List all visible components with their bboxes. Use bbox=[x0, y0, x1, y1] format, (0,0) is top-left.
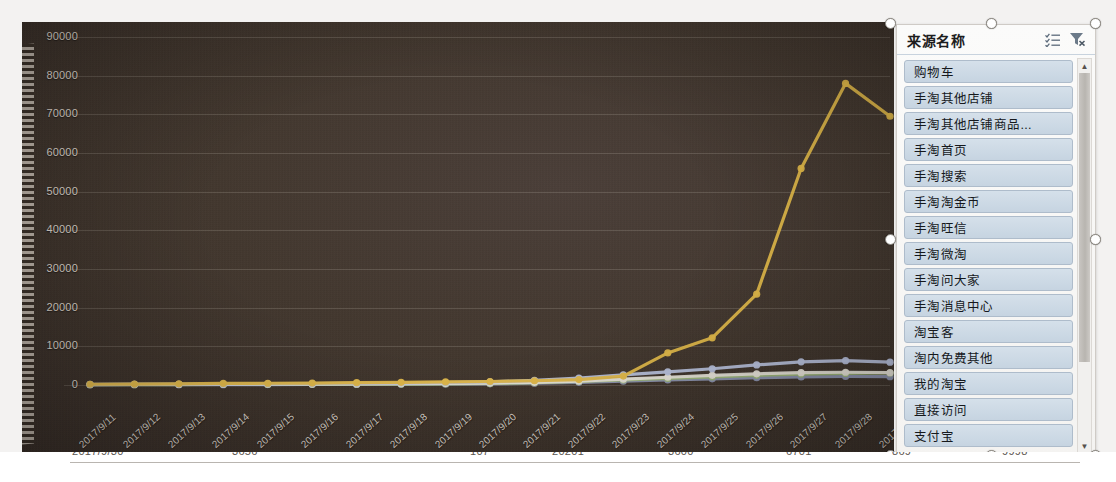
table-cell: 107 bbox=[470, 452, 540, 460]
cropped-table-row: 2017/9/30365610720201360067018699998 bbox=[0, 452, 1116, 482]
scrollbar-thumb[interactable] bbox=[1079, 73, 1090, 362]
series-marker[interactable] bbox=[309, 379, 316, 386]
series-marker[interactable] bbox=[753, 291, 760, 298]
legend-item[interactable]: 手淘其他店铺商品... bbox=[904, 112, 1073, 135]
legend-item[interactable]: 手淘淘金币 bbox=[904, 190, 1073, 213]
legend-item[interactable]: 我的淘宝 bbox=[904, 372, 1073, 395]
line-series-group bbox=[22, 22, 894, 458]
legend-item[interactable]: 淘内免费其他 bbox=[904, 346, 1073, 369]
legend-scrollbar[interactable]: ▲ ▼ bbox=[1077, 58, 1092, 454]
series-marker[interactable] bbox=[798, 369, 805, 376]
series-marker[interactable] bbox=[575, 376, 582, 383]
series-marker[interactable] bbox=[264, 380, 271, 387]
series-marker[interactable] bbox=[842, 80, 849, 87]
scroll-up-arrow-icon[interactable]: ▲ bbox=[1078, 59, 1091, 73]
legend-panel[interactable]: 来源名称 购物车手淘其他店铺手淘其他店铺商品...手淘首页手淘搜索手淘淘 bbox=[896, 24, 1096, 456]
series-marker[interactable] bbox=[531, 377, 538, 384]
legend-item[interactable]: 手淘问大家 bbox=[904, 268, 1073, 291]
table-cell: 20201 bbox=[552, 452, 642, 460]
series-marker[interactable] bbox=[886, 369, 893, 376]
legend-title: 来源名称 bbox=[907, 30, 1041, 50]
series-marker[interactable] bbox=[753, 370, 760, 377]
series-marker[interactable] bbox=[753, 361, 760, 368]
series-marker[interactable] bbox=[842, 357, 849, 364]
series-marker[interactable] bbox=[353, 379, 360, 386]
legend-item[interactable]: 淘宝客 bbox=[904, 320, 1073, 343]
selection-handle-top-left[interactable] bbox=[885, 18, 896, 29]
clear-filter-icon[interactable] bbox=[1065, 29, 1089, 51]
legend-header: 来源名称 bbox=[897, 25, 1095, 55]
legend-item[interactable]: 直接访问 bbox=[904, 398, 1073, 421]
scrollbar-track[interactable] bbox=[1078, 73, 1091, 439]
table-cell: 3656 bbox=[232, 452, 322, 460]
series-marker[interactable] bbox=[175, 380, 182, 387]
series-marker[interactable] bbox=[798, 358, 805, 365]
table-cell: 869 bbox=[892, 452, 972, 460]
table-rule bbox=[70, 462, 1080, 463]
legend-item[interactable]: 手淘微淘 bbox=[904, 242, 1073, 265]
table-cell: 9998 bbox=[1002, 452, 1082, 460]
series-marker[interactable] bbox=[709, 334, 716, 341]
series-marker[interactable] bbox=[620, 373, 627, 380]
series-marker[interactable] bbox=[798, 165, 805, 172]
series-marker[interactable] bbox=[886, 113, 893, 120]
table-cell: 2017/9/30 bbox=[72, 452, 202, 460]
series-marker[interactable] bbox=[398, 379, 405, 386]
scroll-down-arrow-icon[interactable]: ▼ bbox=[1078, 439, 1091, 453]
selection-handle-middle-right[interactable] bbox=[1090, 234, 1101, 245]
series-marker[interactable] bbox=[709, 372, 716, 379]
legend-item[interactable]: 手淘旺信 bbox=[904, 216, 1073, 239]
legend-item[interactable]: 手淘首页 bbox=[904, 138, 1073, 161]
legend-item[interactable]: 手淘其他店铺 bbox=[904, 86, 1073, 109]
selection-handle-top-right[interactable] bbox=[1090, 18, 1101, 29]
series-marker[interactable] bbox=[442, 378, 449, 385]
sort-list-icon[interactable] bbox=[1041, 29, 1065, 51]
chart-plot-area[interactable]: 9000080000700006000050000400003000020000… bbox=[22, 22, 894, 458]
legend-item[interactable]: 手淘搜索 bbox=[904, 164, 1073, 187]
series-marker[interactable] bbox=[86, 381, 93, 388]
series-marker[interactable] bbox=[709, 365, 716, 372]
series-marker[interactable] bbox=[486, 378, 493, 385]
series-marker[interactable] bbox=[886, 359, 893, 366]
series-marker[interactable] bbox=[664, 349, 671, 356]
chart-screenshot-root: 9000080000700006000050000400003000020000… bbox=[0, 0, 1116, 482]
legend-item[interactable]: 购物车 bbox=[904, 60, 1073, 83]
series-marker[interactable] bbox=[842, 369, 849, 376]
table-cell: 6701 bbox=[786, 452, 876, 460]
series-marker[interactable] bbox=[664, 368, 671, 375]
legend-item-list[interactable]: 购物车手淘其他店铺手淘其他店铺商品...手淘首页手淘搜索手淘淘金币手淘旺信手淘微… bbox=[897, 55, 1095, 455]
table-cell: 3600 bbox=[668, 452, 758, 460]
series-line bbox=[90, 83, 890, 384]
legend-item[interactable]: 手淘消息中心 bbox=[904, 294, 1073, 317]
selection-handle-middle-left[interactable] bbox=[885, 234, 896, 245]
series-marker[interactable] bbox=[131, 380, 138, 387]
legend-item[interactable]: 支付宝 bbox=[904, 424, 1073, 447]
series-marker[interactable] bbox=[220, 380, 227, 387]
selection-handle-top-center[interactable] bbox=[986, 18, 997, 29]
